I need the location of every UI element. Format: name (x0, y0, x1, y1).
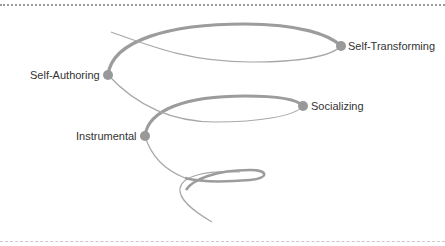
label-socializing: Socializing (311, 100, 364, 113)
spiral-thin-to-instrumental (145, 136, 185, 178)
bottom-dashed-border (0, 241, 445, 242)
spiral-arc-authoring-transforming (108, 24, 341, 75)
node-instrumental (140, 131, 150, 141)
node-socializing (298, 101, 308, 111)
label-self-authoring: Self-Authoring (30, 69, 100, 82)
spiral-tail-thick (185, 170, 264, 190)
node-self-transforming (336, 41, 346, 51)
label-instrumental: Instrumental (76, 130, 137, 143)
label-self-transforming: Self-Transforming (348, 40, 435, 53)
spiral-diagram (0, 0, 445, 246)
node-self-authoring (103, 70, 113, 80)
